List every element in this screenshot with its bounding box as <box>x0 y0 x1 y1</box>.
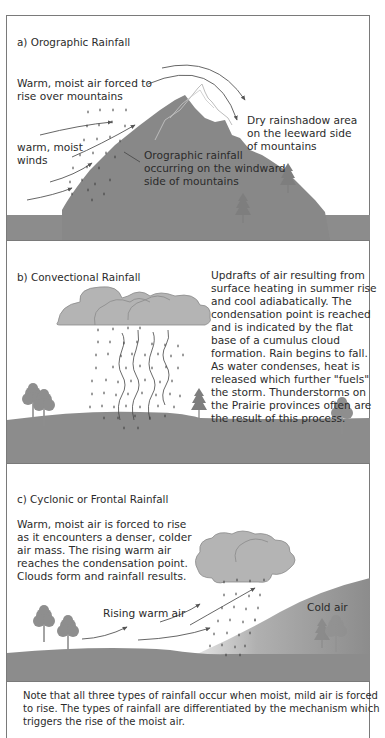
label-winds-line1: warm, moist <box>17 141 83 154</box>
label-rising-warm-air: Rising warm air <box>103 607 185 620</box>
section-b-desc-1: Updrafts of air resulting from <box>211 269 365 282</box>
section-b-desc-10: the storm. Thunderstorms on <box>211 386 366 399</box>
section-c-desc-1: Warm, moist air is forced to rise <box>17 518 186 531</box>
section-b-desc-4: condensation point is reached <box>211 308 371 321</box>
label-winds-line2: winds <box>17 154 48 167</box>
cumulus-cloud-c <box>195 531 295 583</box>
label-leeward-line3: of mountains <box>247 140 317 153</box>
footnote-line3: triggers the rise of the moist air. <box>23 715 185 728</box>
section-b-desc-3: and cool adiabatically. The <box>211 295 352 308</box>
section-b-desc-7: formation. Rain begins to fall. <box>211 347 368 360</box>
label-windward-line3: side of mountains <box>144 175 239 188</box>
footnote-line1: Note that all three types of rainfall oc… <box>23 689 378 702</box>
section-c-desc-3: air mass. The rising warm air <box>17 544 171 557</box>
section-b-desc-9: released which further "fuels" <box>211 373 369 386</box>
label-forced-line1: Warm, moist air forced to <box>17 77 152 90</box>
label-windward-line2: occurring on the windward <box>144 162 286 175</box>
section-c-title: c) Cyclonic or Frontal Rainfall <box>17 493 168 506</box>
section-a-title: a) Orographic Rainfall <box>17 36 130 49</box>
section-b-desc-8: As water condenses, heat is <box>211 360 360 373</box>
section-c-desc-2: as it encounters a denser, colder <box>17 531 192 544</box>
section-b-desc-2: surface heating in summer rise <box>211 282 377 295</box>
cumulus-cloud-b <box>57 287 211 325</box>
section-b-desc-6: base of a cumulus cloud <box>211 334 340 347</box>
section-b-desc-12: the result of this process. <box>211 412 345 425</box>
section-b-desc-5: and is indicated by the flat <box>211 321 353 334</box>
section-b-desc-11: the Prairie provinces often are <box>211 399 371 412</box>
section-c-desc-4: reaches the condensation point. <box>17 557 188 570</box>
label-forced-line2: rise over mountains <box>17 90 123 103</box>
label-leeward-line2: on the leeward side <box>247 127 351 140</box>
label-leeward-line1: Dry rainshadow area <box>247 114 357 127</box>
section-b-title: b) Convectional Rainfall <box>17 271 141 284</box>
label-windward-line1: Orographic rainfall <box>144 149 243 162</box>
section-c-desc-5: Clouds form and rainfall results. <box>17 570 186 583</box>
label-cold-air: Cold air <box>307 601 348 614</box>
footnote-line2: to rise. The types of rainfall are diffe… <box>23 702 379 715</box>
